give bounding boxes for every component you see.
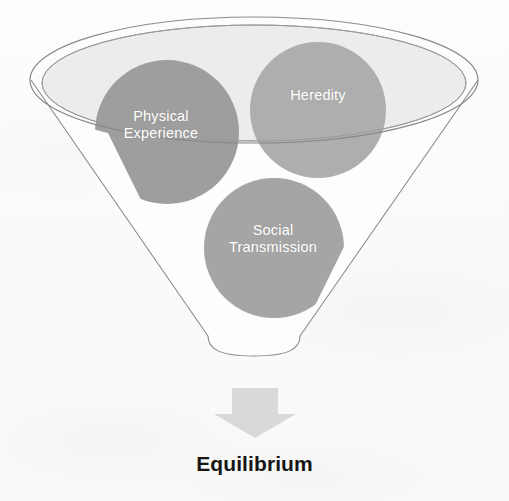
diagram-page: Physical Experience Heredity Social Tran…: [0, 0, 509, 501]
circle-label-heredity: Heredity: [248, 87, 388, 104]
circle-heredity[interactable]: [250, 42, 386, 178]
circle-label-social-transmission: Social Transmission: [198, 222, 348, 256]
outcome-label-equilibrium: Equilibrium: [0, 452, 509, 476]
down-arrow-icon: [214, 388, 296, 438]
circle-label-physical-experience: Physical Experience: [86, 108, 236, 142]
